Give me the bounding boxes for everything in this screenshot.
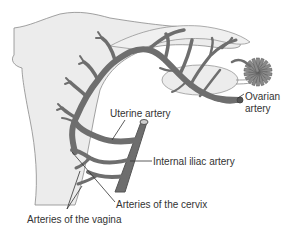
- label-ovarian-artery-line1: Ovarian: [245, 91, 280, 102]
- leader-uterine: [112, 120, 125, 140]
- iliac-artery-opening: [140, 120, 148, 125]
- label-uterine-artery: Uterine artery: [110, 108, 171, 119]
- label-arteries-cervix: Arteries of the cervix: [116, 199, 207, 210]
- fimbriae: [244, 58, 272, 86]
- uterine-artery-diagram: Uterine artery Ovarian artery Internal i…: [0, 0, 302, 232]
- label-internal-iliac-artery: Internal iliac artery: [153, 156, 235, 167]
- label-ovarian-artery-line2: artery: [245, 103, 271, 114]
- label-arteries-vagina: Arteries of the vagina: [27, 214, 122, 225]
- ovarian-artery-stump: [237, 97, 243, 103]
